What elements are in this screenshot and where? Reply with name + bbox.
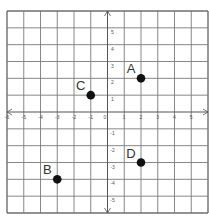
x-tick-label: 1 [123,114,126,120]
y-axis-tick-labels: 54321-1-2-3-4-5 [110,29,115,203]
x-tick-label: 5 [190,114,193,120]
point-label-c: C [76,78,85,93]
x-axis-tick-labels: -6-5-4-3-2-1012345 [5,114,193,120]
point-label-b: B [43,162,52,177]
y-tick-label: 4 [111,46,114,52]
point-label-d: D [126,146,135,161]
x-tick-label: -4 [38,114,43,120]
point-d: D [126,146,145,167]
coordinate-plane: -6-5-4-3-2-1012345 54321-1-2-3-4-5 ABCD [0,0,209,221]
x-tick-label: 0 [104,114,107,120]
x-tick-label: -3 [55,114,60,120]
plotted-points: ABCD [43,61,145,183]
point-a: A [127,61,146,82]
y-tick-label: -2 [110,147,115,153]
point-label-a: A [127,61,136,76]
y-tick-label: -5 [110,197,115,203]
x-tick-label: -1 [89,114,94,120]
point-marker-b [53,175,62,184]
y-tick-label: -4 [110,180,115,186]
point-marker-a [137,74,146,83]
x-tick-label: -6 [5,114,10,120]
y-tick-label: 1 [111,96,114,102]
axes [7,11,208,213]
x-tick-label: 2 [140,114,143,120]
x-tick-label: -2 [72,114,77,120]
x-tick-label: -5 [22,114,27,120]
y-tick-label: -1 [110,130,115,136]
point-marker-c [86,91,95,100]
x-tick-label: 4 [173,114,176,120]
point-b: B [43,162,62,183]
point-c: C [76,78,95,99]
point-marker-d [137,158,146,167]
x-tick-label: 3 [156,114,159,120]
y-tick-label: 2 [111,79,114,85]
y-tick-label: 5 [111,29,114,35]
y-tick-label: -3 [110,164,115,170]
y-tick-label: 3 [111,63,114,69]
